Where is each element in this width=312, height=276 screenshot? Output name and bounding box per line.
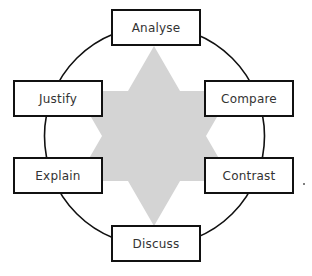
node-justify-label: Justify (39, 92, 77, 106)
node-explain-label: Explain (35, 169, 80, 183)
node-compare: Compare (204, 80, 294, 117)
node-discuss-label: Discuss (133, 237, 180, 251)
node-contrast-label: Contrast (223, 169, 276, 183)
node-explain: Explain (13, 157, 103, 194)
node-discuss: Discuss (111, 225, 201, 262)
node-analyse-label: Analyse (132, 21, 181, 35)
diagram-canvas: Analyse Compare Contrast Discuss Explain… (0, 0, 312, 276)
node-contrast: Contrast (204, 157, 294, 194)
stray-dot (303, 183, 305, 185)
node-analyse: Analyse (111, 9, 201, 46)
hexagram-star-shape (76, 46, 232, 226)
node-justify: Justify (13, 80, 103, 117)
node-compare-label: Compare (221, 92, 277, 106)
